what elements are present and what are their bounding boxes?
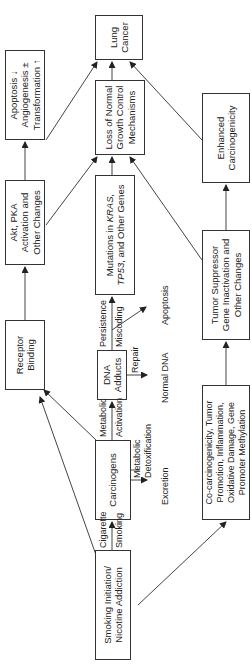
label-metabolic-activation-2: Activation — [114, 398, 125, 437]
node-dna-adducts: DNA Adducts — [97, 350, 127, 400]
node-lung-cancer: Lung Cancer — [95, 15, 143, 60]
node-enhanced-carcinogenicity: Enhanced Carcinogenicity — [202, 93, 250, 183]
label-repair: Repair — [130, 346, 141, 373]
node-tumor-suppressor: Tumor Suppressor Gene Inactivation and O… — [202, 230, 250, 340]
node-loss-of-growth-control: Loss of Normal Growth Control Mechanisms — [95, 80, 145, 155]
label-metabolic-detox-2: Detoxification — [143, 424, 154, 478]
mutations-text: Mutations in KRAS,TP53, and Other Genes — [104, 185, 127, 286]
label-metabolic-activation-1: Metabolic — [98, 398, 109, 437]
label-normal-dna: Normal DNA — [160, 352, 171, 403]
node-carcinogens: Carcinogens — [95, 440, 131, 520]
label-cigarette: Cigarette — [98, 511, 109, 548]
node-receptor-binding: Receptor Binding — [5, 320, 45, 390]
label-apoptosis: Apoptosis — [160, 285, 171, 325]
node-akt-pka-activation: Akt, PKA Activation and Other Changes — [5, 180, 45, 265]
node-apoptosis-angiogenesis: Apoptosis ↓ Angiogenesis ± Transformatio… — [5, 50, 45, 140]
label-miscoding: Miscoding — [114, 306, 125, 347]
node-co-carcinogenicity: Co-carcinogenicity, Tumor Promotion, Inf… — [202, 385, 250, 520]
label-smoking: Smoking — [114, 513, 125, 548]
label-metabolic-detox-1: Metabolic — [132, 439, 143, 478]
diagram-canvas: Receptor Binding Akt, PKA Activation and… — [0, 0, 252, 665]
node-mutations: Mutations in KRAS,TP53, and Other Genes — [95, 175, 135, 295]
label-excretion: Excretion — [160, 467, 171, 505]
node-smoking-initiation: Smoking Initiation/ Nicotine Addiction — [95, 550, 131, 660]
label-persistence: Persistence — [98, 300, 109, 347]
